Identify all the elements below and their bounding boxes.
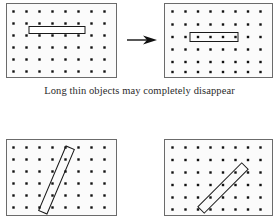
panel-bottom-right (164, 139, 273, 216)
panel-bottom-left-canvas (7, 140, 117, 216)
thin-object-horizontal (29, 27, 85, 34)
panel-top-left-canvas (7, 4, 117, 78)
transition-arrow (126, 33, 158, 47)
thin-object-diagonal-steep (39, 146, 75, 214)
figure-root: Long thin objects may completely disappe… (0, 0, 279, 222)
panel-top-left (6, 3, 117, 78)
dot-grid-bottom-left (12, 146, 105, 208)
dot-grid-top-left (12, 10, 105, 72)
panel-top-right (164, 3, 273, 78)
panel-bottom-right-canvas (165, 140, 273, 216)
figure-caption: Long thin objects may completely disappe… (0, 84, 279, 97)
panel-top-right-canvas (165, 4, 273, 78)
thin-object-diagonal-45 (198, 163, 248, 213)
panel-bottom-left (6, 139, 117, 216)
